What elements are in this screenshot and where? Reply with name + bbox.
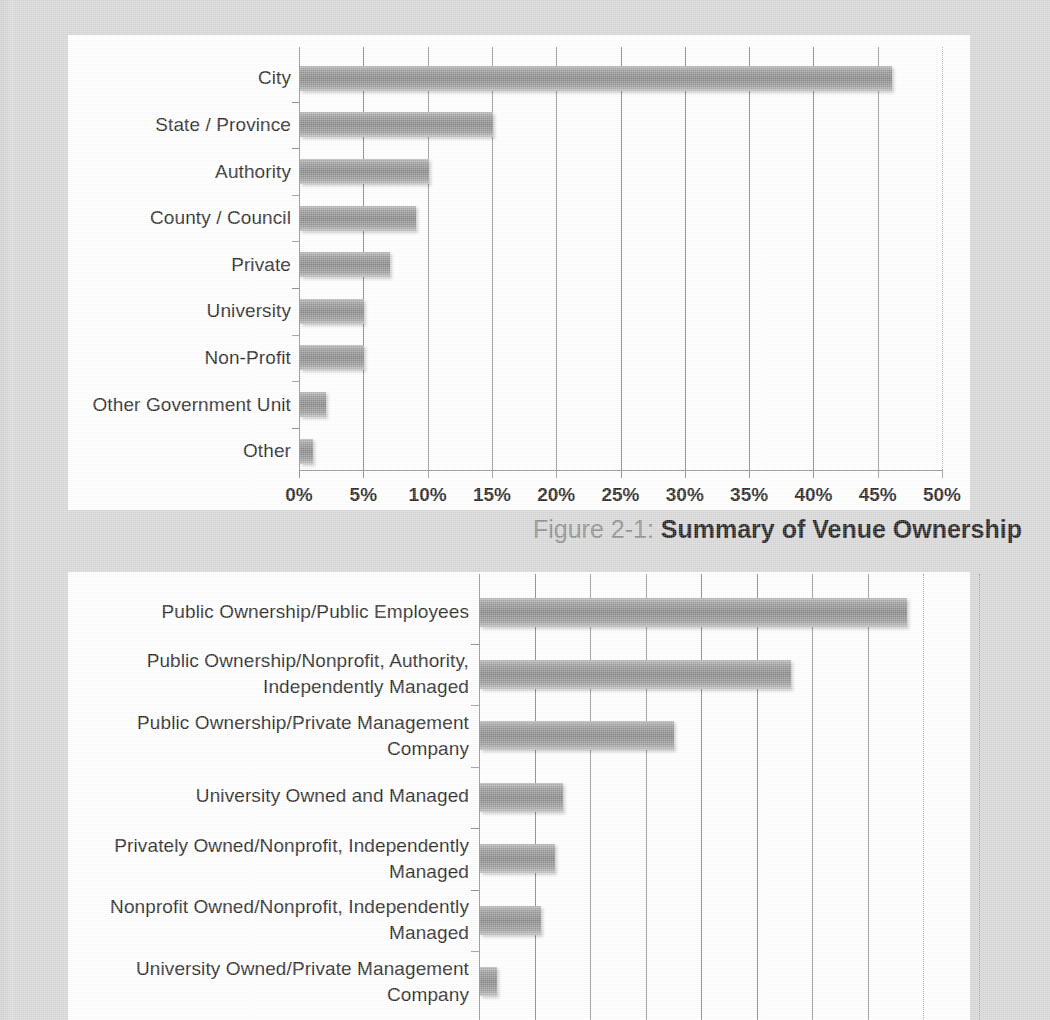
chart-two-axis-tick [471, 644, 479, 645]
chart-one-x-tick-label: 5% [329, 484, 397, 506]
chart-one-x-tick [685, 470, 686, 478]
chart-two-category-label-line: Managed [74, 859, 469, 885]
chart-one-x-tick-label: 30% [651, 484, 719, 506]
chart-one-x-tick [556, 470, 557, 478]
chart-two-gridline [979, 574, 981, 1020]
chart-one-axis-tick [292, 381, 299, 382]
chart-one-x-tick [363, 470, 364, 478]
chart-one-x-tick-label: 45% [844, 484, 912, 506]
chart-two-category-label: Public Ownership/Private ManagementCompa… [74, 710, 469, 762]
chart-two-category-label: Public Ownership/Public Employees [74, 600, 469, 623]
chart-two-category-label: Privately Owned/Nonprofit, Independently… [74, 833, 469, 885]
chart-one-x-tick-label: 0% [265, 484, 333, 506]
chart-one-x-tick [942, 470, 943, 478]
chart-two-category-label: University Owned/Private ManagementCompa… [74, 956, 469, 1008]
chart-two-gridline [590, 574, 591, 1020]
chart-one-category-label: Other [51, 439, 291, 462]
chart-one-gridline [878, 47, 879, 470]
chart-two-plot-area: Public Ownership/Public EmployeesPublic … [68, 572, 970, 1020]
chart-one-x-tick [878, 470, 879, 478]
chart-two-bar [480, 598, 907, 627]
chart-one-axis-tick [292, 335, 299, 336]
chart-one-x-tick-label: 10% [394, 484, 462, 506]
chart-one-axis-tick [292, 428, 299, 429]
chart-one-axis-tick [292, 102, 299, 103]
chart-two-category-label-line: Managed [74, 920, 469, 946]
chart-two-gridline [757, 574, 758, 1020]
chart-one-bar [300, 112, 493, 137]
figure-two-panel: Public Ownership/Public EmployeesPublic … [68, 572, 970, 1020]
chart-one-axis-tick [292, 195, 299, 196]
chart-two-gridline [701, 574, 702, 1020]
chart-two-axis-tick [471, 705, 479, 706]
chart-one-bar [300, 345, 364, 370]
chart-two-category-label-line: University Owned/Private Management [74, 956, 469, 982]
chart-two-category-label-line: University Owned and Managed [74, 784, 469, 807]
chart-one-category-label: Private [51, 253, 291, 276]
chart-two-axis-tick [471, 828, 479, 829]
chart-one-category-label: State / Province [51, 113, 291, 136]
chart-one-axis-tick [292, 148, 299, 149]
figure-one-caption: Figure 2-1: Summary of Venue Ownership [0, 512, 1022, 546]
chart-one-x-tick-label: 25% [587, 484, 655, 506]
chart-one-gridline [428, 47, 429, 470]
chart-one-x-tick [299, 470, 300, 478]
chart-one-gridline [813, 47, 814, 470]
chart-one-gridline [685, 47, 686, 470]
chart-one-gridline [556, 47, 557, 470]
chart-one-gridline [942, 47, 944, 470]
chart-two-bar [480, 660, 791, 689]
chart-one-x-tick [492, 470, 493, 478]
chart-one-category-label: University [51, 299, 291, 322]
chart-one-bar [300, 206, 416, 231]
chart-one-x-tick-label: 50% [908, 484, 976, 506]
chart-two-bar [480, 844, 555, 873]
chart-two-category-label-line: Public Ownership/Private Management [74, 710, 469, 736]
page-left-edge-shadow [0, 0, 14, 1020]
chart-one-gridline [492, 47, 493, 470]
chart-one-gridline [621, 47, 622, 470]
chart-two-gridline [868, 574, 869, 1020]
chart-two-category-label-line: Public Ownership/Public Employees [74, 600, 469, 623]
chart-two-category-label-line: Independently Managed [74, 674, 469, 700]
chart-two-bar [480, 906, 541, 935]
chart-one-bar [300, 439, 313, 464]
chart-one-axis-tick [292, 241, 299, 242]
chart-two-bar [480, 721, 674, 750]
chart-two-gridline [923, 574, 925, 1020]
chart-two-axis-tick [471, 890, 479, 891]
figure-one-caption-title: Summary of Venue Ownership [661, 515, 1022, 543]
chart-one-x-tick [621, 470, 622, 478]
chart-one-axis-tick [292, 288, 299, 289]
chart-one-category-label: City [51, 66, 291, 89]
chart-one-x-tick-label: 40% [779, 484, 847, 506]
chart-one-category-label: Non-Profit [51, 346, 291, 369]
chart-one-bar [300, 252, 390, 277]
chart-two-bar [480, 783, 563, 812]
chart-one-category-label: Authority [51, 160, 291, 183]
chart-two-category-label: University Owned and Managed [74, 784, 469, 807]
figure-one-caption-prefix: Figure 2-1: [533, 515, 654, 543]
chart-one-bar [300, 66, 892, 91]
chart-one-bar [300, 392, 326, 417]
chart-two-category-label: Nonprofit Owned/Nonprofit, Independently… [74, 894, 469, 946]
chart-two-category-label-line: Company [74, 982, 469, 1008]
chart-one-category-label: Other Government Unit [51, 393, 291, 416]
chart-two-category-label: Public Ownership/Nonprofit, Authority,In… [74, 648, 469, 700]
chart-one-x-tick-label: 35% [715, 484, 783, 506]
chart-one-x-tick [813, 470, 814, 478]
chart-one-x-tick-label: 20% [522, 484, 590, 506]
chart-one-category-label: County / Council [51, 206, 291, 229]
chart-two-category-label-line: Company [74, 736, 469, 762]
chart-two-gridline [812, 574, 813, 1020]
chart-two-category-label-line: Nonprofit Owned/Nonprofit, Independently [74, 894, 469, 920]
figure-one-panel: CityState / ProvinceAuthorityCounty / Co… [68, 35, 970, 510]
chart-two-category-label-line: Privately Owned/Nonprofit, Independently [74, 833, 469, 859]
chart-two-gridline [646, 574, 647, 1020]
chart-two-bar [480, 967, 497, 996]
chart-one-plot-area: CityState / ProvinceAuthorityCounty / Co… [68, 35, 970, 510]
chart-two-axis-tick [471, 951, 479, 952]
chart-one-gridline [749, 47, 750, 470]
chart-one-bar [300, 299, 364, 324]
chart-one-x-tick [428, 470, 429, 478]
